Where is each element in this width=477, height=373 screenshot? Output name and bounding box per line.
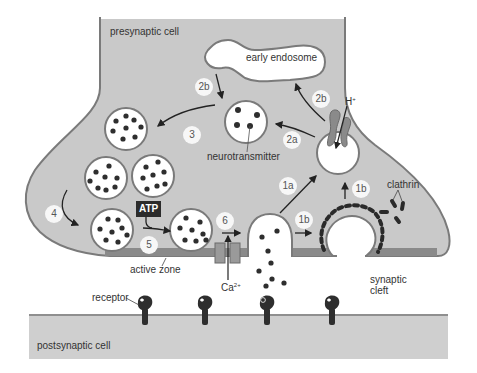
step-1a: 1a (279, 177, 297, 195)
receptor-label: receptor (92, 292, 129, 303)
proton-label: H+ (345, 94, 356, 107)
atp-badge: ATP (136, 201, 161, 217)
synaptic-cleft-label-1: synaptic (370, 274, 407, 285)
step-1b-lower: 1b (295, 211, 313, 229)
synaptic-cleft-label-2: cleft (370, 285, 388, 296)
postsynaptic-cell (29, 314, 448, 359)
step-1b-upper: 1b (352, 180, 370, 198)
active-zone-label: active zone (130, 264, 181, 275)
step-6: 6 (216, 212, 234, 230)
step-3: 3 (183, 126, 201, 144)
calcium-label: Ca2+ (221, 280, 241, 293)
neurotransmitter-label: neurotransmitter (207, 151, 280, 162)
step-2b-left: 2b (195, 78, 213, 96)
refilling-vesicle (225, 101, 267, 143)
presynaptic-cell-label: presynaptic cell (110, 26, 179, 37)
step-2a: 2a (283, 131, 301, 149)
step-5: 5 (140, 236, 158, 254)
early-endosome-label: early endosome (246, 52, 317, 63)
postsynaptic-cell-label: postsynaptic cell (37, 340, 110, 351)
step-2b-right: 2b (312, 90, 330, 108)
clathrin-label: clathrin (387, 179, 419, 190)
step-4: 4 (45, 205, 63, 223)
